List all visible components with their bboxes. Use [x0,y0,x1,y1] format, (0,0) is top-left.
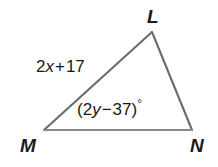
degree-symbol-icon: ° [137,97,142,111]
angle-measure-label-m: (2y−37)° [77,101,142,118]
vertex-label-m: M [20,136,36,155]
angle-operator: − [101,100,113,119]
angle-constant: 37 [113,100,132,119]
side-operator: + [54,57,66,76]
angle-coefficient: 2 [83,100,92,119]
angle-variable: y [92,100,101,119]
side-length-label-ml: 2x+17 [36,58,85,75]
side-constant: 17 [66,57,85,76]
side-variable: x [45,57,54,76]
triangle-side-LN [152,32,192,130]
vertex-label-n: N [190,136,204,155]
vertex-label-l: L [147,7,159,26]
geometry-figure: L M N 2x+17 (2y−37)° [0,0,218,167]
